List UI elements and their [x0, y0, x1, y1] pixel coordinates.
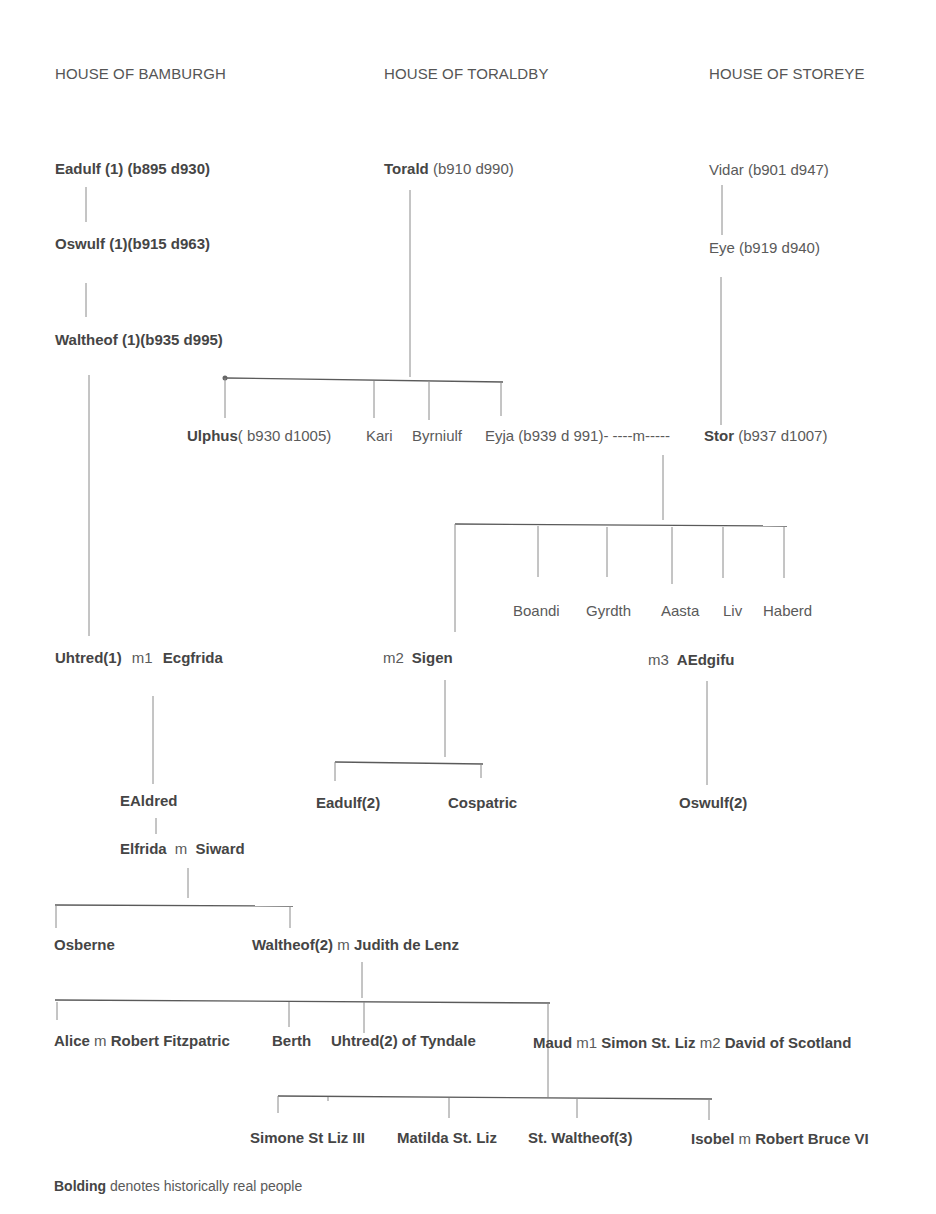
- spouse-name: Robert Bruce VI: [755, 1130, 868, 1147]
- person-aedgifu: m3AEdgifu: [648, 651, 734, 669]
- person-name: Torald: [384, 160, 429, 177]
- marriage-label: m: [94, 1032, 107, 1049]
- person-name: Uhtred(1): [55, 649, 122, 666]
- person-eye: Eye (b919 d940): [709, 239, 820, 257]
- spouse-name: Ecgfrida: [163, 649, 223, 666]
- person-name: Sigen: [412, 649, 453, 666]
- person-gyrdth: Gyrdth: [586, 602, 631, 620]
- person-name: Ulphus: [187, 427, 238, 444]
- person-simone-st-liz: Simone St Liz III: [250, 1129, 365, 1147]
- person-matilda-st-liz: Matilda St. Liz: [397, 1129, 497, 1147]
- person-name: Maud: [533, 1034, 572, 1051]
- person-eadulf-1: Eadulf (1) (b895 d930): [55, 160, 210, 178]
- marriage-label-2: m2: [700, 1034, 721, 1051]
- header-house-of-storeye: HOUSE OF STOREYE: [709, 65, 865, 83]
- person-liv: Liv: [723, 602, 742, 620]
- person-elfrida: Elfrida m Siward: [120, 840, 245, 858]
- person-kari: Kari: [366, 427, 393, 445]
- person-dates: ( b930 d1005): [238, 427, 331, 444]
- person-name: Alice: [54, 1032, 90, 1049]
- marriage-label: m1: [132, 649, 153, 666]
- person-sigen: m2Sigen: [383, 649, 453, 667]
- person-alice: Alice m Robert Fitzpatric: [54, 1032, 230, 1050]
- spouse-name-1: Simon St. Liz: [601, 1034, 695, 1051]
- person-uhtred-2: Uhtred(2) of Tyndale: [331, 1032, 476, 1050]
- person-maud: Maud m1 Simon St. Liz m2 David of Scotla…: [533, 1034, 851, 1052]
- person-boandi: Boandi: [513, 602, 560, 620]
- person-ulphus: Ulphus( b930 d1005): [187, 427, 331, 445]
- person-vidar: Vidar (b901 d947): [709, 161, 829, 179]
- spouse-name: Siward: [196, 840, 245, 857]
- person-name: Elfrida: [120, 840, 167, 857]
- person-cospatric: Cospatric: [448, 794, 517, 812]
- person-dates: (b910 d990): [429, 160, 514, 177]
- person-berth: Berth: [272, 1032, 311, 1050]
- marriage-label: m3: [648, 651, 669, 668]
- spouse-name-2: David of Scotland: [725, 1034, 852, 1051]
- person-waltheof-1: Waltheof (1)(b935 d995): [55, 331, 223, 349]
- spouse-name: Judith de Lenz: [354, 936, 459, 953]
- marriage-label: m: [337, 936, 350, 953]
- person-eadulf-2: Eadulf(2): [316, 794, 380, 812]
- person-torald: Torald (b910 d990): [384, 160, 514, 178]
- person-st-waltheof-3: St. Waltheof(3): [528, 1129, 632, 1147]
- legend-note: Bolding denotes historically real people: [54, 1177, 302, 1195]
- person-aasta: Aasta: [661, 602, 699, 620]
- person-stor: Stor (b937 d1007): [704, 427, 827, 445]
- person-dates: (b937 d1007): [734, 427, 827, 444]
- marriage-label: m2: [383, 649, 404, 666]
- legend-bold-word: Bolding: [54, 1178, 106, 1194]
- person-oswulf-1: Oswulf (1)(b915 d963): [55, 235, 210, 253]
- header-house-of-toraldby: HOUSE OF TORALDBY: [384, 65, 549, 83]
- person-name: Isobel: [691, 1130, 734, 1147]
- person-name: Stor: [704, 427, 734, 444]
- marriage-label: m: [739, 1130, 752, 1147]
- person-osberne: Osberne: [54, 936, 115, 954]
- person-haberd: Haberd: [763, 602, 812, 620]
- person-waltheof-2: Waltheof(2) m Judith de Lenz: [252, 936, 459, 954]
- marriage-label: m: [175, 840, 188, 857]
- person-ealdred: EAldred: [120, 792, 178, 810]
- person-oswulf-2: Oswulf(2): [679, 794, 747, 812]
- legend-text: denotes historically real people: [106, 1178, 302, 1194]
- person-name: Waltheof(2): [252, 936, 333, 953]
- person-uhtred-1: Uhtred(1) m1 Ecgfrida: [55, 649, 223, 667]
- header-house-of-bamburgh: HOUSE OF BAMBURGH: [55, 65, 226, 83]
- marriage-label-1: m1: [576, 1034, 597, 1051]
- spouse-name: Robert Fitzpatric: [111, 1032, 230, 1049]
- person-isobel: Isobel m Robert Bruce VI: [691, 1130, 869, 1148]
- person-eyja-marriage: Eyja (b939 d 991)- ----m-----: [485, 427, 670, 445]
- person-name: AEdgifu: [677, 651, 735, 668]
- person-byrniulf: Byrniulf: [412, 427, 462, 445]
